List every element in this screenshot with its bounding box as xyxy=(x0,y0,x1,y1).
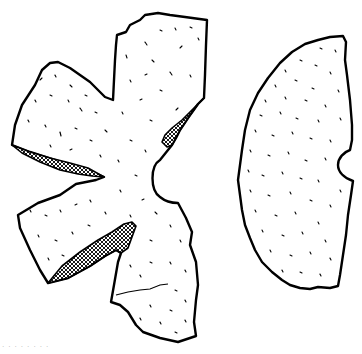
right-fragment-outline xyxy=(238,36,353,289)
artifact-illustration xyxy=(0,0,362,354)
figure-caption: · · · · · · · · xyxy=(2,343,49,350)
left-fragment-outline xyxy=(12,13,207,342)
left-fragment xyxy=(12,13,207,342)
right-fragment xyxy=(238,36,353,289)
